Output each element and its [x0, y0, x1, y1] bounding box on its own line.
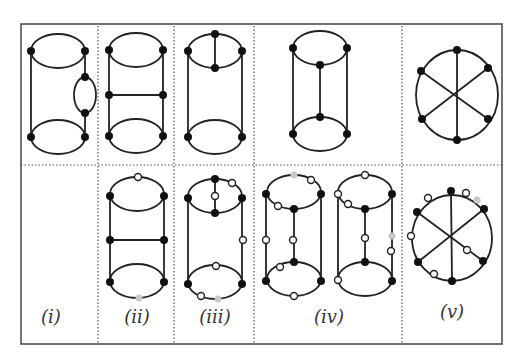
figure-frame [21, 24, 502, 344]
open-nodes [135, 172, 471, 300]
graph-iv-a-bottom [266, 175, 321, 296]
panel-label-iii: (iii) [199, 306, 230, 327]
filled-nodes [27, 30, 492, 288]
graph-iv-top [293, 31, 347, 151]
graph-iii-top [188, 34, 242, 154]
panel-label-iv: (iv) [314, 306, 344, 327]
graph-v-top [416, 50, 498, 140]
graph-ii-bottom [110, 177, 164, 298]
graph-v-bottom [412, 191, 492, 281]
panel-label-ii: (ii) [124, 306, 150, 327]
panel-label-v: (v) [440, 301, 464, 322]
panel-label-i: (i) [41, 306, 61, 327]
grid-dividers [21, 26, 502, 343]
graph-ii-top [109, 33, 163, 153]
